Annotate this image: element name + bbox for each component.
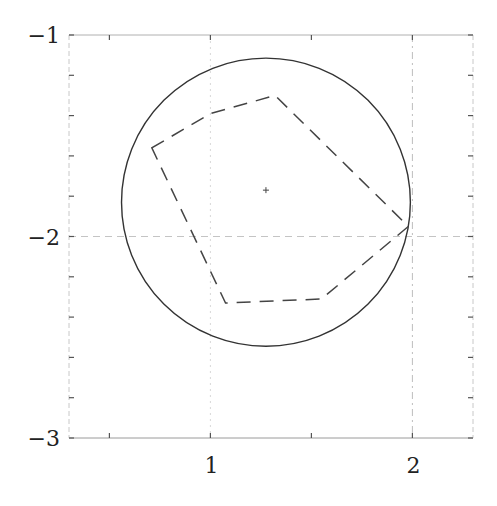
plus-marker-icon [263, 187, 269, 193]
y-tick-label: −1 [28, 23, 60, 48]
y-tick-label: −2 [28, 225, 60, 250]
plot-series [122, 58, 411, 346]
x-tick-labels: 12 [204, 453, 420, 478]
x-tick-label: 2 [406, 453, 420, 478]
reference-lines [69, 35, 473, 438]
chart: 12 −1−2−3 [0, 0, 497, 506]
y-tick-labels: −1−2−3 [28, 23, 60, 451]
circle-curve [122, 58, 411, 346]
y-tick-label: −3 [28, 426, 60, 451]
dashed-polygon [152, 95, 409, 303]
x-tick-label: 1 [204, 453, 218, 478]
